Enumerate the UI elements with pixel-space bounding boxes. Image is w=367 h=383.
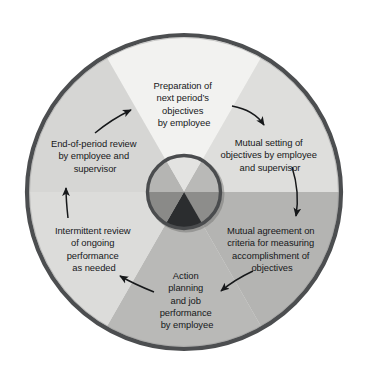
cycle-wheel-svg: Preparation of next period’s objectives … — [0, 0, 367, 383]
label-preparation: Preparation of next period’s objectives … — [154, 80, 215, 128]
mbo-cycle-diagram: Preparation of next period’s objectives … — [0, 0, 367, 383]
